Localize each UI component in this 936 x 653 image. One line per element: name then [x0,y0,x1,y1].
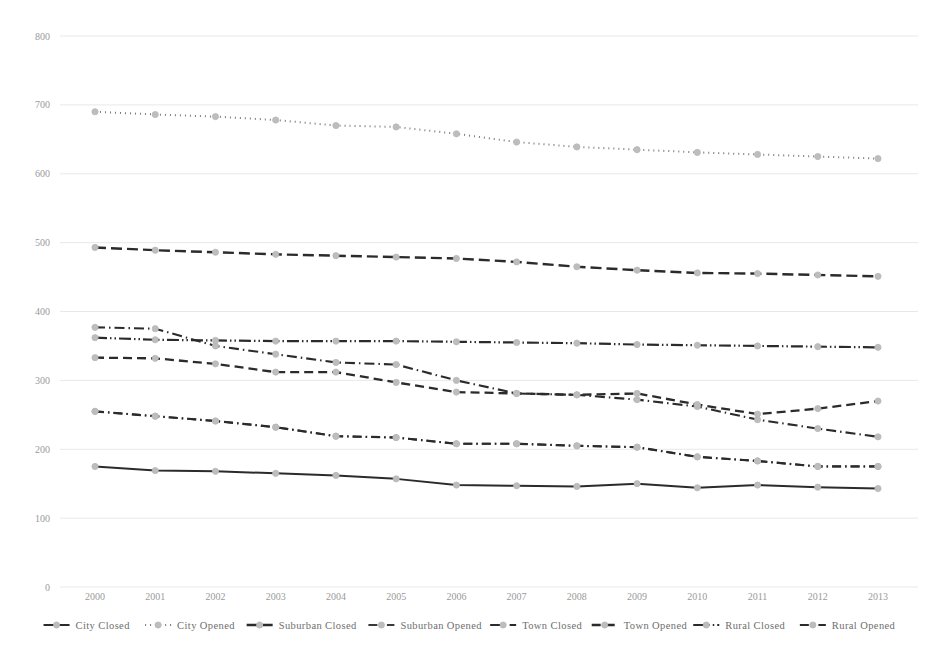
line-chart-figure: 0100200300400500600700800 20002001200220… [0,0,936,653]
data-point-marker [514,139,520,145]
data-point-marker [152,111,158,117]
data-point-marker [694,270,700,276]
data-point-marker [393,434,399,440]
data-point-marker [754,343,760,349]
legend-marker [703,622,709,628]
data-point-marker [92,109,98,115]
data-point-marker [92,335,98,341]
legend-label: City Opened [177,620,235,631]
data-point-marker [574,483,580,489]
legend-item-city-opened[interactable]: City Opened [145,620,235,631]
data-point-marker [453,131,459,137]
y-axis-tick-label: 700 [35,99,50,110]
x-axis-tick-label: 2008 [567,591,587,602]
data-point-marker [574,340,580,346]
markers-group [92,109,881,492]
x-axis-tick-label: 2006 [446,591,466,602]
data-point-marker [815,484,821,490]
data-point-marker [453,441,459,447]
y-axis-labels: 0100200300400500600700800 [35,31,50,593]
legend-marker [53,622,59,628]
data-point-marker [152,468,158,474]
data-point-marker [514,483,520,489]
data-point-marker [453,339,459,345]
y-axis-tick-label: 600 [35,168,50,179]
data-point-marker [875,273,881,279]
data-point-marker [333,359,339,365]
data-point-marker [92,463,98,469]
data-point-marker [514,441,520,447]
data-point-marker [393,476,399,482]
legend-item-suburban-opened[interactable]: Suburban Opened [368,620,482,631]
data-point-marker [694,149,700,155]
data-point-marker [815,425,821,431]
data-point-marker [92,324,98,330]
data-point-marker [634,341,640,347]
data-point-marker [815,344,821,350]
legend-marker [500,622,506,628]
legend-marker [155,622,161,628]
legend-marker [257,622,263,628]
legend-item-town-closed[interactable]: Town Closed [490,620,582,631]
data-point-marker [634,444,640,450]
data-point-marker [152,247,158,253]
data-point-marker [634,397,640,403]
data-point-marker [152,326,158,332]
legend-marker [810,622,816,628]
x-axis-tick-label: 2005 [386,591,406,602]
data-point-marker [333,472,339,478]
data-point-marker [333,433,339,439]
data-point-marker [393,338,399,344]
legend-marker [602,622,608,628]
x-axis-tick-label: 2007 [507,591,527,602]
gridlines-group [60,36,918,587]
legend-item-town-opened[interactable]: Town Opened [592,620,688,631]
data-point-marker [393,361,399,367]
y-axis-tick-label: 200 [35,444,50,455]
data-point-marker [273,369,279,375]
x-axis-tick-label: 2010 [687,591,707,602]
legend-item-rural-closed[interactable]: Rural Closed [693,620,785,631]
x-axis-tick-label: 2011 [748,591,768,602]
chart-legend: City ClosedCity OpenedSuburban ClosedSub… [44,620,896,631]
data-point-marker [152,413,158,419]
legend-label: Town Opened [624,620,688,631]
legend-label: Rural Opened [832,620,896,631]
x-axis-tick-label: 2013 [868,591,888,602]
legend-item-suburban-closed[interactable]: Suburban Closed [247,620,357,631]
data-point-marker [875,344,881,350]
y-axis-tick-label: 500 [35,237,50,248]
x-axis-labels: 2000200120022003200420052006200720082009… [85,591,888,602]
data-point-marker [574,144,580,150]
data-point-marker [453,482,459,488]
legend-label: City Closed [76,620,131,631]
y-axis-tick-label: 400 [35,306,50,317]
legend-item-city-closed[interactable]: City Closed [44,620,131,631]
data-point-marker [574,264,580,270]
data-point-marker [453,389,459,395]
data-point-marker [333,338,339,344]
data-point-marker [333,122,339,128]
series-line-city-opened [95,112,878,159]
legend-label: Suburban Closed [279,620,357,631]
x-axis-tick-label: 2004 [326,591,346,602]
data-point-marker [453,255,459,261]
data-point-marker [212,113,218,119]
data-point-marker [273,338,279,344]
data-point-marker [92,408,98,414]
data-point-marker [754,151,760,157]
x-axis-tick-label: 2001 [145,591,165,602]
x-axis-tick-label: 2012 [808,591,828,602]
data-point-marker [514,390,520,396]
data-point-marker [815,463,821,469]
legend-label: Rural Closed [725,620,785,631]
legend-item-rural-opened[interactable]: Rural Opened [800,620,896,631]
data-point-marker [634,267,640,273]
data-point-marker [212,249,218,255]
data-point-marker [754,458,760,464]
data-point-marker [815,153,821,159]
data-point-marker [273,470,279,476]
data-point-marker [754,271,760,277]
y-axis-tick-label: 100 [35,513,50,524]
data-point-marker [393,124,399,130]
